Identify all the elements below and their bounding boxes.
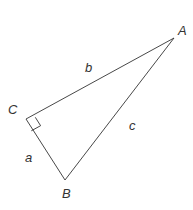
vertex-label-c: C — [8, 102, 18, 117]
vertex-label-b: B — [62, 186, 71, 201]
side-label-a: a — [25, 150, 32, 165]
right-triangle-diagram: A C B b c a — [0, 0, 193, 210]
side-b — [26, 38, 174, 119]
vertex-label-a: A — [177, 23, 187, 38]
side-label-b: b — [85, 60, 92, 75]
side-label-c: c — [129, 118, 136, 133]
side-c — [65, 38, 174, 180]
